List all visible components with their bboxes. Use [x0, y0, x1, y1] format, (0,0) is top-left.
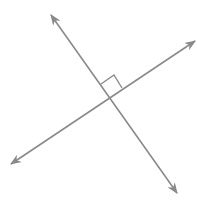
perpendicular-lines-diagram	[0, 0, 197, 205]
right-angle-marker	[101, 75, 122, 88]
line-b	[11, 41, 195, 164]
diagram-svg	[0, 0, 197, 205]
line-a	[51, 15, 177, 193]
